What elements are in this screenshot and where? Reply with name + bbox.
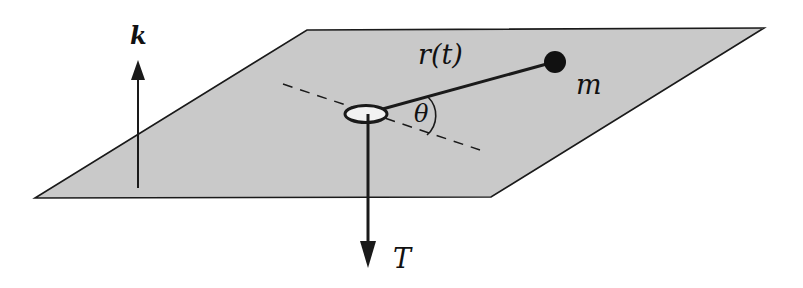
radius-label: r(t) <box>418 39 463 70</box>
table-plane <box>35 28 764 198</box>
mass-point <box>544 51 566 73</box>
k-vector-label: k <box>130 21 147 50</box>
tension-label: T <box>393 243 413 274</box>
angle-label: θ <box>414 100 429 128</box>
figure: k r(t) m θ T <box>0 0 803 288</box>
hole-ellipse <box>345 106 387 123</box>
mass-label: m <box>576 69 602 100</box>
